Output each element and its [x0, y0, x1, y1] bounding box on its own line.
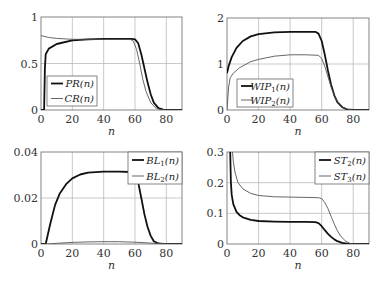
plot-wip: 020406080012nWIP1(n)WIP2(n)	[217, 12, 369, 138]
legend-label: CR(n)	[65, 93, 95, 104]
y-tick-label: 0	[217, 104, 224, 117]
y-tick-label: 0.2	[207, 177, 225, 190]
y-tick-label: 0	[217, 238, 224, 251]
figure: 02040608000.51nPR(n)CR(n) 020406080012nW…	[0, 0, 382, 285]
x-tick-label: 0	[224, 113, 231, 126]
plot-bl: 02040608000.020.04nBL1(n)BL2(n)	[14, 146, 183, 272]
y-tick-label: 0.3	[207, 146, 225, 159]
plot-st: 02040608000.10.20.3nST2(n)ST3(n)	[207, 146, 370, 272]
x-axis-label: n	[108, 125, 115, 138]
x-tick-label: 80	[346, 113, 360, 126]
y-tick-label: 1	[217, 58, 224, 71]
x-tick-label: 0	[38, 247, 45, 260]
x-tick-label: 80	[346, 247, 360, 260]
y-tick-label: 0.1	[207, 207, 225, 220]
x-tick-label: 0	[224, 247, 231, 260]
x-tick-label: 20	[65, 247, 79, 260]
x-tick-label: 20	[65, 113, 79, 126]
x-axis-label: n	[108, 259, 115, 272]
x-tick-label: 0	[38, 113, 45, 126]
x-tick-label: 60	[315, 247, 329, 260]
x-tick-label: 20	[252, 247, 266, 260]
x-tick-label: 80	[159, 247, 173, 260]
y-tick-label: 0.5	[21, 58, 39, 71]
y-tick-label: 1	[31, 11, 38, 24]
y-tick-label: 0	[31, 104, 38, 117]
x-tick-label: 80	[159, 113, 173, 126]
x-axis-label: n	[294, 259, 301, 272]
legend-label: PR(n)	[64, 78, 94, 89]
x-tick-label: 20	[252, 113, 266, 126]
y-tick-label: 2	[217, 12, 224, 25]
y-tick-label: 0	[31, 238, 38, 251]
y-tick-label: 0.02	[14, 192, 39, 205]
y-tick-label: 0.04	[14, 146, 39, 159]
x-axis-label: n	[294, 125, 301, 138]
x-tick-label: 60	[128, 247, 142, 260]
plot-pr-cr: 02040608000.51nPR(n)CR(n)	[21, 11, 183, 138]
x-tick-label: 60	[315, 113, 329, 126]
x-tick-label: 60	[128, 113, 142, 126]
